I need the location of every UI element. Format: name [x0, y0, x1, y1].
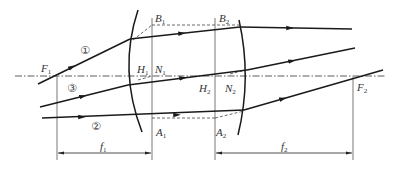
label-a2: A2	[215, 126, 227, 140]
label-b1: B1	[155, 12, 166, 26]
construction-a2-lens2	[215, 111, 244, 118]
ray-marker-2: ②	[91, 120, 101, 133]
label-f1-length: f1	[100, 140, 107, 154]
label-f2-point: F2	[356, 81, 368, 95]
label-f1-point: F1	[40, 62, 52, 76]
optics-diagram: F1 B1 B2 H1 N1 H2 N2 A1 A2 F2 f1 f2 ① ③ …	[0, 0, 393, 174]
label-n2: N2	[224, 82, 236, 96]
label-n1: N1	[154, 63, 166, 77]
ray-marker-3: ③	[67, 82, 77, 95]
label-h1: H1	[136, 63, 149, 77]
label-h2: H2	[198, 82, 211, 96]
lens-2	[238, 20, 245, 135]
ray-marker-1: ①	[80, 44, 90, 57]
label-f2-length: f2	[281, 140, 288, 154]
label-b2: B2	[219, 12, 230, 26]
label-a1: A1	[155, 126, 167, 140]
